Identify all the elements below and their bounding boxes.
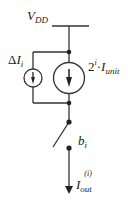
main-current-label: 2i·Iunit	[88, 59, 119, 76]
top-node	[67, 50, 72, 55]
output-arrow-icon	[65, 186, 73, 194]
switch-label: bi	[78, 134, 87, 150]
output-current-label: Iout(i)	[76, 178, 98, 191]
bottom-node	[67, 101, 72, 106]
circuit-schematic	[0, 0, 128, 203]
delta-current-label: ΔIi	[8, 53, 23, 69]
switch-bottom-contact	[66, 145, 71, 150]
vdd-label: VDD	[27, 9, 48, 25]
switch-blade	[53, 122, 69, 147]
switch-top-contact	[66, 119, 71, 124]
